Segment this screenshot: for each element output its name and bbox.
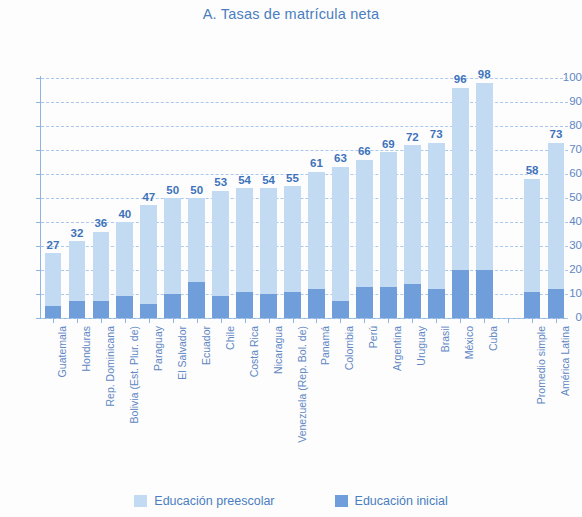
bar-stack[interactable]: 50 — [164, 198, 181, 318]
bar-stack[interactable]: 53 — [212, 191, 229, 318]
x-axis-tick-mark — [412, 318, 413, 323]
x-axis-category-label: Brasil — [440, 326, 451, 352]
x-axis-tick-mark — [149, 318, 150, 323]
gridline — [41, 318, 568, 319]
bar-stack[interactable]: 50 — [188, 198, 205, 318]
x-axis-tick-mark — [460, 318, 461, 323]
bar-segment-inicial[interactable] — [404, 284, 421, 318]
bar-value-label: 27 — [33, 240, 73, 252]
x-axis-category-label: Colombia — [344, 326, 355, 370]
bar-stack[interactable]: 98 — [476, 83, 493, 318]
bar-segment-inicial[interactable] — [116, 296, 133, 318]
x-axis-tick-mark — [484, 318, 485, 323]
legend-swatch-icon — [335, 495, 348, 507]
bar-stack[interactable]: 96 — [452, 88, 469, 318]
bar-segment-inicial[interactable] — [140, 304, 157, 318]
bar-value-label: 98 — [464, 69, 504, 81]
bar-stack[interactable]: 63 — [332, 167, 349, 318]
bar-segment-inicial[interactable] — [284, 292, 301, 318]
bar-stack[interactable]: 47 — [140, 205, 157, 318]
bar-segment-preescolar[interactable] — [332, 167, 349, 318]
chart-legend: Educación preescolarEducación inicial — [0, 494, 582, 508]
x-axis-tick-mark — [316, 318, 317, 323]
bar-stack[interactable]: 27 — [45, 253, 62, 318]
legend-item[interactable]: Educación preescolar — [134, 494, 274, 508]
bar-stack[interactable]: 58 — [524, 179, 541, 318]
x-axis-category-label: Bolivia (Est. Plur. de) — [129, 326, 140, 423]
bar-segment-inicial[interactable] — [212, 296, 229, 318]
bar-segment-inicial[interactable] — [69, 301, 86, 318]
bar-segment-inicial[interactable] — [524, 292, 541, 318]
x-axis-tick-mark — [269, 318, 270, 323]
bar-stack[interactable]: 54 — [236, 188, 253, 318]
x-axis-category-label: Rep. Dominicana — [105, 326, 116, 407]
bar-stack[interactable]: 73 — [548, 143, 565, 318]
bar-segment-inicial[interactable] — [45, 306, 62, 318]
x-axis-tick-mark — [388, 318, 389, 323]
x-axis-tick-mark — [245, 318, 246, 323]
bar-segment-inicial[interactable] — [380, 287, 397, 318]
chart-title: A. Tasas de matrícula neta — [0, 6, 582, 22]
x-axis-tick-mark — [293, 318, 294, 323]
x-axis-category-label: Panamá — [320, 326, 331, 365]
bar-segment-inicial[interactable] — [476, 270, 493, 318]
x-axis-tick-mark — [364, 318, 365, 323]
x-axis-category-label: El Salvador — [177, 326, 188, 380]
x-axis-category-label: Honduras — [81, 326, 92, 372]
bar-segment-inicial[interactable] — [308, 289, 325, 318]
x-axis-tick-mark — [77, 318, 78, 323]
x-axis-tick-mark — [101, 318, 102, 323]
chart-container: A. Tasas de matrícula neta 0102030405060… — [0, 0, 582, 517]
bar-value-label: 73 — [416, 129, 456, 141]
bar-stack[interactable]: 36 — [93, 232, 110, 318]
bar-value-label: 73 — [536, 129, 576, 141]
legend-swatch-icon — [134, 495, 147, 507]
bar-segment-inicial[interactable] — [236, 292, 253, 318]
legend-item[interactable]: Educación inicial — [335, 494, 448, 508]
bar-segment-inicial[interactable] — [548, 289, 565, 318]
x-axis-category-label: Costa Rica — [249, 326, 260, 377]
bar-segment-inicial[interactable] — [452, 270, 469, 318]
x-axis-category-label: Promedio simple — [536, 326, 547, 404]
bar-segment-inicial[interactable] — [188, 282, 205, 318]
bar-segment-inicial[interactable] — [93, 301, 110, 318]
bar-stack[interactable]: 40 — [116, 222, 133, 318]
x-axis-category-label: Chile — [225, 326, 236, 350]
x-axis-tick-mark — [197, 318, 198, 323]
x-axis-category-label: Uruguay — [416, 326, 427, 366]
x-axis-category-label: Argentina — [392, 326, 403, 371]
x-axis-category-label: México — [464, 326, 475, 359]
x-axis-category-label: Guatemala — [57, 326, 68, 377]
bar-stack[interactable]: 55 — [284, 186, 301, 318]
bar-stack[interactable]: 32 — [69, 241, 86, 318]
x-axis-tick-mark — [556, 318, 557, 323]
x-axis-category-label: América Latina — [560, 326, 571, 396]
bar-segment-inicial[interactable] — [164, 294, 181, 318]
bar-value-label: 55 — [273, 173, 313, 185]
x-axis-tick-mark — [221, 318, 222, 323]
bar-stack[interactable]: 61 — [308, 172, 325, 318]
bar-segment-preescolar[interactable] — [140, 205, 157, 318]
bar-stack[interactable]: 69 — [380, 152, 397, 318]
x-axis-category-label: Nicaragua — [273, 326, 284, 374]
x-axis-tick-mark — [532, 318, 533, 323]
x-axis-category-label: Cuba — [488, 326, 499, 351]
x-axis-tick-mark — [436, 318, 437, 323]
x-axis-tick-mark — [508, 318, 509, 323]
plot-area: 2732364047505053545455616366697273969858… — [41, 78, 568, 318]
bar-value-label: 40 — [105, 209, 145, 221]
x-axis-tick-mark — [173, 318, 174, 323]
bar-stack[interactable]: 54 — [260, 188, 277, 318]
bar-segment-inicial[interactable] — [428, 289, 445, 318]
bar-stack[interactable]: 73 — [428, 143, 445, 318]
bar-segment-inicial[interactable] — [260, 294, 277, 318]
bar-segment-inicial[interactable] — [356, 287, 373, 318]
bar-value-label: 58 — [512, 165, 552, 177]
x-axis-category-label: Paraguay — [153, 326, 164, 371]
bar-stack[interactable]: 66 — [356, 160, 373, 318]
x-axis-tick-mark — [125, 318, 126, 323]
x-axis-category-label: Ecuador — [201, 326, 212, 365]
bar-segment-inicial[interactable] — [332, 301, 349, 318]
bar-stack[interactable]: 72 — [404, 145, 421, 318]
x-axis-tick-mark — [53, 318, 54, 323]
